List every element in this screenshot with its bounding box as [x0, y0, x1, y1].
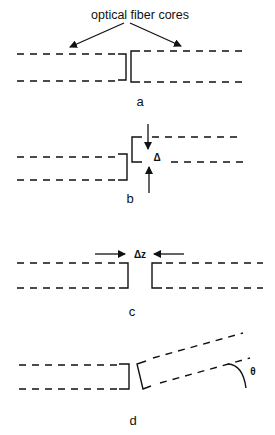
gap-symbol: Δz	[134, 249, 146, 260]
panel-label-a: a	[136, 94, 144, 109]
right-fiber-end-face	[137, 361, 151, 389]
offset-symbol: Δ	[153, 152, 160, 163]
panel-label-d: d	[129, 413, 136, 428]
panel-label-b: b	[126, 191, 133, 206]
panel-c: Δz c	[17, 249, 263, 319]
callout-label: optical fiber cores	[91, 8, 189, 22]
panel-a: optical fiber cores a	[17, 8, 243, 109]
right-fiber-upper-edge	[153, 333, 243, 358]
left-fiber-end-face	[118, 54, 126, 80]
left-fiber-end-face	[119, 263, 128, 288]
left-fiber-end-face	[119, 364, 129, 389]
fiber-misalignment-diagram: optical fiber cores a Δ b Δz c	[0, 0, 275, 435]
right-fiber-lower-edge	[160, 358, 250, 383]
angle-arc	[228, 364, 246, 388]
left-fiber-end-face	[118, 154, 127, 180]
right-fiber-end-face	[152, 263, 162, 288]
right-fiber-end-face	[132, 137, 142, 162]
panel-d: θ d	[19, 333, 256, 428]
callout-arrow-right	[130, 23, 181, 46]
panel-label-c: c	[129, 304, 136, 319]
right-fiber-end-face	[131, 51, 140, 82]
angle-symbol: θ	[250, 366, 255, 377]
callout-arrow-left	[70, 23, 124, 47]
panel-b: Δ b	[17, 124, 243, 206]
